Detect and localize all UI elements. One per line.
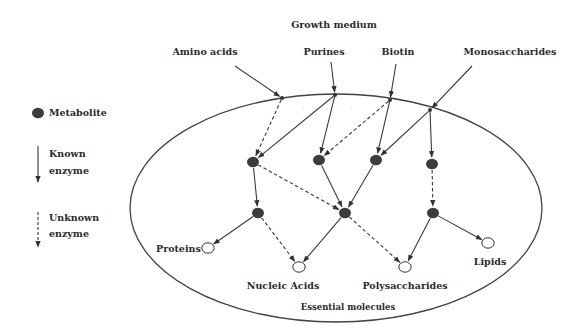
metabolite-node [370, 155, 382, 165]
known-enzyme-edge [408, 218, 430, 260]
entry-point-node [333, 93, 337, 97]
legend-unknown-label-2: enzyme [49, 228, 89, 239]
growth-medium-title: Growth medium [291, 19, 377, 30]
input-label-monosaccharides: Monosaccharides [464, 46, 557, 57]
essential-molecule-node-lipids [482, 238, 494, 248]
known-enzyme-edge [390, 64, 396, 97]
metabolite-node [427, 208, 439, 218]
legend-known-label-1: Known [49, 148, 86, 159]
metabolite-legend-icon [32, 108, 44, 118]
metabolite-node [247, 157, 259, 167]
metabolite-node [339, 208, 351, 218]
input-label-amino-acids: Amino acids [172, 46, 237, 57]
known-enzyme-edge [430, 112, 432, 157]
metabolite-node [252, 208, 264, 218]
metabolite-node [426, 159, 438, 169]
output-label-lipids: Lipids [474, 256, 507, 267]
known-enzyme-edge [331, 62, 335, 92]
essential-molecule-node-poly [399, 262, 411, 272]
entry-point-node [280, 96, 284, 100]
known-enzyme-edge [235, 66, 280, 96]
unknown-enzyme-edge [258, 165, 339, 210]
entry-point-node [428, 108, 432, 112]
known-enzyme-edge [438, 216, 482, 240]
essential-molecule-node-nucleic [293, 262, 305, 272]
output-label-proteins: Proteins [156, 243, 201, 254]
essential-molecule-node-proteins [202, 243, 214, 253]
input-label-purines: Purines [304, 46, 345, 57]
entry-point-node [388, 98, 392, 102]
unknown-enzyme-edge [349, 217, 399, 262]
known-enzyme-edge [381, 111, 428, 155]
known-enzyme-edge [322, 165, 342, 206]
nodes-layer [202, 93, 494, 272]
output-label-polysaccharides: Polysaccharides [362, 280, 447, 291]
cell-boundary-ellipse [130, 94, 542, 322]
known-enzyme-edge [432, 66, 472, 108]
known-enzyme-edge [214, 216, 253, 244]
legend-unknown-label-1: Unknown [49, 212, 99, 223]
essential-molecules-label: Essential molecules [301, 302, 396, 312]
metabolite-node [313, 155, 325, 165]
unknown-enzyme-edge [432, 170, 433, 206]
known-enzyme-edge [304, 218, 342, 262]
known-enzyme-edge [254, 168, 258, 206]
unknown-enzyme-edge [256, 100, 281, 156]
legend-metabolite-label: Metabolite [49, 107, 107, 118]
output-label-nucleic-acids: Nucleic Acids [247, 280, 319, 291]
unknown-enzyme-edge [262, 218, 295, 262]
legend-known-label-2: enzyme [49, 165, 89, 176]
known-enzyme-edge [349, 165, 373, 207]
input-label-biotin: Biotin [382, 46, 415, 57]
